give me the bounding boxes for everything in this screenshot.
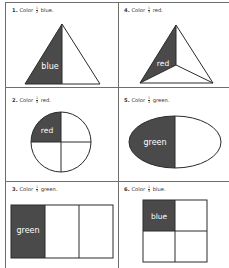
item-3-rectangle-thirds: green [11,205,113,258]
item-4-shaded-label: red [157,59,170,68]
item-1-triangle-halves: blue [25,24,100,84]
fractions-worksheet: 1. Color 12 blue. 4. Color 13 red. 2. Co… [0,0,229,268]
item-6-square-quarters: blue [143,200,207,262]
shapes-canvas: blue red red green [0,0,229,268]
item-2-shaded-label: red [41,126,54,135]
item-6-shaded-label: blue [151,212,168,221]
item-4-triangle-thirds: red [140,25,213,83]
item-5-shaded-label: green [143,138,166,147]
item-5-ellipse-halves: green [129,116,221,168]
item-2-circle-quarters: red [31,112,91,172]
item-3-shaded-label: green [16,226,39,235]
item-1-shaded-label: blue [41,62,58,71]
